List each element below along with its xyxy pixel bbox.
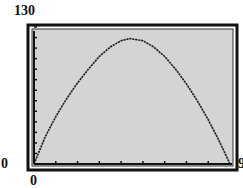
graph-screen <box>0 0 243 188</box>
plot-area <box>32 29 233 166</box>
